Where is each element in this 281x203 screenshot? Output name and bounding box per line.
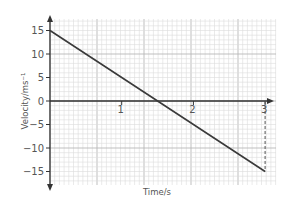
y-axis-arrow-up-icon <box>47 15 53 22</box>
grid <box>50 19 276 185</box>
y-tick-label: 10 <box>31 49 44 60</box>
x-axis-title: Time/s <box>142 187 172 197</box>
x-axis-arrow-icon <box>267 98 274 104</box>
y-tick-label: −5 <box>29 119 44 130</box>
x-tick-label: 1 <box>118 104 124 115</box>
x-tick-label: 2 <box>189 104 195 115</box>
y-tick-label: 0 <box>38 96 44 107</box>
y-tick-label: 15 <box>31 25 44 36</box>
y-tick-label: 5 <box>38 72 44 83</box>
y-axis-title: Velocity/ms⁻¹ <box>20 73 30 130</box>
y-axis-arrow-down-icon <box>47 184 53 191</box>
x-tick-label: 3 <box>261 104 267 115</box>
y-tick-label: −15 <box>23 166 44 177</box>
velocity-time-chart: 151050−5−10−15123 Time/s Velocity/ms⁻¹ <box>0 0 281 203</box>
y-tick-label: −10 <box>23 143 44 154</box>
